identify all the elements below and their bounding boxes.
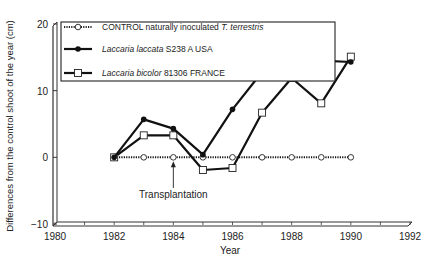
legend-label-control-species: T. terrestris (221, 22, 264, 32)
x-tick-label: 1988 (281, 231, 304, 242)
x-tick-label: 1984 (162, 231, 185, 242)
open-circle-marker-icon (259, 155, 265, 161)
filled-circle-marker-icon (111, 155, 117, 161)
y-axis-label: Differences from the control shoot of th… (4, 20, 15, 232)
open-circle-marker-icon (171, 155, 177, 161)
x-tick-label: 1992 (399, 231, 422, 242)
y-tick-label: −10 (31, 219, 48, 230)
open-square-marker-icon (229, 165, 236, 172)
x-tick-label: 1990 (340, 231, 363, 242)
open-square-marker-icon (140, 132, 147, 139)
legend: CONTROL naturally inoculated T. terrestr… (61, 22, 335, 81)
line-chart: 20100−10 1980198219841986198819901992 Ye… (0, 0, 435, 260)
filled-circle-marker-icon (141, 117, 147, 123)
legend-label-control: CONTROL naturally inoculated (102, 22, 221, 32)
filled-circle-marker-icon (348, 59, 354, 65)
filled-circle-marker-icon (75, 46, 81, 52)
chart-svg: 20100−10 1980198219841986198819901992 Ye… (0, 0, 435, 260)
open-square-marker-icon (347, 53, 354, 60)
x-tick-label: 1982 (103, 231, 126, 242)
svg-text:Laccaria laccata S238 A USA: Laccaria laccata S238 A USA (102, 44, 213, 54)
x-tick-label: 1986 (221, 231, 244, 242)
legend-label-bicolor: 81306 FRANCE (162, 68, 226, 78)
legend-label-laccata: S238 A USA (163, 44, 212, 54)
open-circle-marker-icon (289, 155, 295, 161)
x-axis-label: Year (220, 245, 241, 256)
svg-text:CONTROL naturally inoculated T: CONTROL naturally inoculated T. terrestr… (102, 22, 264, 32)
x-tick-label: 1980 (44, 231, 67, 242)
annotation-text: Transplantation (139, 189, 208, 200)
open-square-marker-icon (199, 167, 206, 174)
y-tick-label: 10 (37, 86, 49, 97)
y-tick-label: 20 (37, 19, 49, 30)
legend-label-laccata-species: Laccaria laccata (102, 44, 164, 54)
open-square-marker-icon (259, 109, 266, 116)
open-circle-marker-icon (348, 155, 354, 161)
open-square-marker-icon (170, 132, 177, 139)
x-axis-ticks: 1980198219841986198819901992 (44, 222, 422, 242)
open-circle-marker-icon (75, 24, 81, 30)
arrow-up-icon (171, 161, 176, 167)
open-circle-marker-icon (318, 155, 324, 161)
open-circle-marker-icon (141, 155, 147, 161)
y-tick-label: 0 (42, 152, 48, 163)
svg-text:Laccaria bicolor 81306 FRANCE: Laccaria bicolor 81306 FRANCE (102, 68, 225, 78)
filled-circle-marker-icon (200, 152, 206, 158)
open-square-marker-icon (75, 70, 82, 77)
series-0 (111, 155, 353, 161)
open-square-marker-icon (318, 100, 325, 107)
legend-label-bicolor-species: Laccaria bicolor (102, 68, 163, 78)
open-circle-marker-icon (230, 155, 236, 161)
filled-circle-marker-icon (230, 107, 236, 113)
filled-circle-marker-icon (171, 126, 177, 132)
transplantation-annotation: Transplantation (139, 161, 208, 200)
